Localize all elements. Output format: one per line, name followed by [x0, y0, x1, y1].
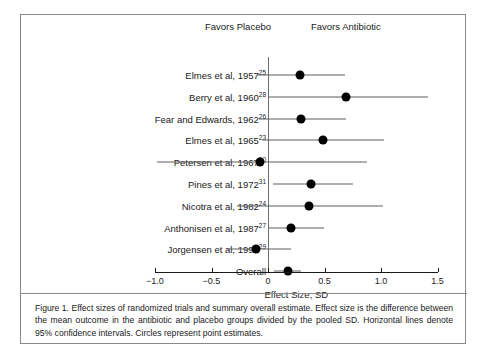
x-axis-tick-label: 1.0 — [375, 276, 388, 286]
point-estimate-marker — [251, 245, 260, 254]
point-estimate-marker — [295, 71, 304, 80]
point-estimate-marker — [319, 136, 328, 145]
x-axis-tick-label: 0.5 — [318, 276, 331, 286]
x-axis-tick-label: −1.0 — [146, 276, 164, 286]
point-estimate-marker — [296, 114, 305, 123]
x-axis-tick-label: 1.5 — [431, 276, 444, 286]
x-axis-tick — [212, 268, 213, 272]
figure-container: Favors Placebo Favors Antibiotic Elmes e… — [20, 14, 466, 344]
point-estimate-marker — [286, 223, 295, 232]
null-reference-line — [268, 57, 269, 272]
reference-superscript: 31 — [259, 178, 266, 185]
point-estimate-marker — [306, 180, 315, 189]
point-estimate-marker — [341, 92, 350, 101]
point-estimate-marker — [256, 158, 265, 167]
study-label: Anthonisen et al, 198727 — [56, 222, 266, 234]
column-header-favors-antibiotic: Favors Antibiotic — [311, 21, 381, 32]
reference-superscript: 27 — [259, 222, 266, 229]
x-axis-tick — [268, 268, 269, 272]
study-label: Pines et al, 197231 — [56, 178, 266, 190]
study-label: Nicotra et al, 198224 — [56, 200, 266, 212]
x-axis-tick — [325, 268, 326, 272]
column-header-favors-placebo: Favors Placebo — [205, 21, 271, 32]
study-label: Elmes et al, 195725 — [56, 69, 266, 81]
forest-plot: Favors Placebo Favors Antibiotic Elmes e… — [21, 15, 467, 289]
study-label: Elmes et al, 196523 — [56, 134, 266, 146]
x-axis-tick — [155, 268, 156, 272]
confidence-interval-line — [269, 227, 324, 228]
point-estimate-marker — [304, 201, 313, 210]
study-label: Fear and Edwards, 196226 — [56, 113, 266, 125]
x-axis-line — [155, 272, 438, 273]
x-axis-tick-label: 0 — [265, 276, 270, 286]
x-axis-tick — [438, 268, 439, 272]
figure-caption: Figure 1. Effect sizes of randomized tri… — [21, 293, 467, 339]
study-label: Berry et al, 196028 — [56, 91, 266, 103]
reference-superscript: 28 — [259, 91, 266, 98]
x-axis-tick-label: −0.5 — [203, 276, 221, 286]
x-axis-tick — [381, 268, 382, 272]
